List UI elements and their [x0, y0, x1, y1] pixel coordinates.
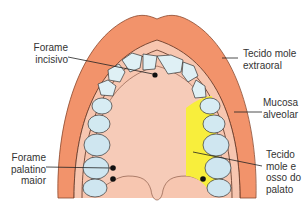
label-line: Tecido	[266, 149, 301, 161]
label-forame-palatino-maior: Forame palatino maior	[0, 152, 46, 187]
label-line: palatino	[0, 164, 46, 176]
palate-diagram	[0, 0, 308, 209]
label-line: mole e	[266, 161, 301, 173]
label-line: extraoral	[243, 60, 296, 72]
label-line: Forame	[0, 152, 46, 164]
label-forame-incisivo: Forame incisivo	[20, 42, 68, 65]
label-line: maior	[0, 175, 46, 187]
label-mucosa-alveolar: Mucosa alveolar	[263, 97, 298, 120]
greater-palatine-foramen-left-2	[110, 176, 116, 182]
label-line: Forame	[20, 42, 68, 54]
label-line: alveolar	[263, 109, 298, 121]
greater-palatine-foramen-left-1	[110, 165, 116, 171]
label-tecido-mole-osso-palato: Tecido mole e osso do palato	[266, 149, 301, 195]
label-line: osso do	[266, 172, 301, 184]
label-line: palato	[266, 184, 301, 196]
incisive-foramen	[152, 72, 157, 77]
label-line: Tecido mole	[243, 48, 296, 60]
greater-palatine-foramen-right	[200, 176, 206, 182]
label-line: incisivo	[20, 54, 68, 66]
label-line: Mucosa	[263, 97, 298, 109]
label-tecido-mole-extraoral: Tecido mole extraoral	[243, 48, 296, 71]
